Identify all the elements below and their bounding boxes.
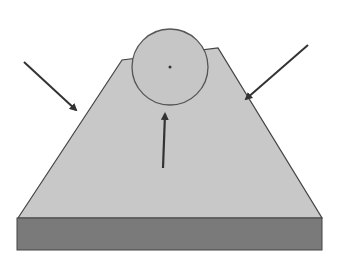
diagram-canvas xyxy=(0,0,340,257)
left-force-arrow xyxy=(24,62,76,110)
base-slab xyxy=(17,218,322,250)
right-force-arrow xyxy=(246,45,308,99)
ball-center-dot xyxy=(169,66,172,69)
